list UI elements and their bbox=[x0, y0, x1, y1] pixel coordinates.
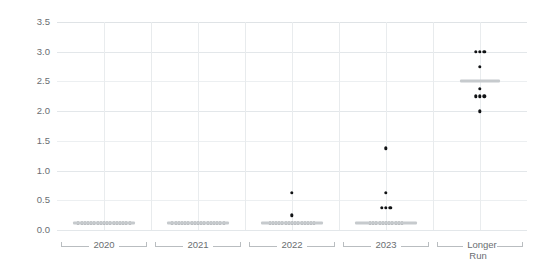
y-axis-tick-label: 0.0 bbox=[2, 225, 50, 235]
y-axis-tick-label: 2.5 bbox=[2, 77, 50, 87]
data-point bbox=[384, 191, 387, 194]
group-center-line bbox=[480, 22, 481, 230]
x-axis-group-label: 2020 bbox=[61, 239, 147, 250]
median-bar bbox=[167, 221, 229, 224]
data-point bbox=[474, 95, 477, 98]
group-center-line bbox=[292, 22, 293, 230]
data-point bbox=[290, 213, 293, 216]
data-point bbox=[478, 50, 481, 53]
x-axis-group-2022: 2022 bbox=[249, 236, 335, 270]
y-axis-tick-label: 1.0 bbox=[2, 166, 50, 176]
y-axis: 0.00.51.01.52.02.53.03.5 bbox=[0, 22, 50, 230]
plot-area bbox=[57, 22, 527, 230]
group-separator bbox=[245, 22, 246, 230]
data-point bbox=[290, 191, 293, 194]
data-point bbox=[478, 65, 481, 68]
group-separator bbox=[151, 22, 152, 230]
x-axis-group-label: 2023 bbox=[343, 239, 429, 250]
group-center-line bbox=[104, 22, 105, 230]
data-point bbox=[384, 206, 387, 209]
x-axis-group-2023: 2023 bbox=[343, 236, 429, 270]
dot-plot-chart: 0.00.51.01.52.02.53.03.5 202020212022202… bbox=[0, 0, 534, 276]
data-point bbox=[478, 109, 481, 112]
data-point bbox=[483, 95, 486, 98]
data-point bbox=[474, 50, 477, 53]
group-center-line bbox=[198, 22, 199, 230]
data-point bbox=[478, 87, 481, 90]
group-separator bbox=[433, 22, 434, 230]
group-separator bbox=[339, 22, 340, 230]
y-axis-tick-label: 3.5 bbox=[2, 17, 50, 27]
data-point bbox=[483, 50, 486, 53]
data-point bbox=[380, 206, 383, 209]
median-bar bbox=[460, 80, 500, 83]
median-bar bbox=[73, 221, 135, 224]
x-axis-group-label: 2021 bbox=[155, 239, 241, 250]
x-axis: 2020202120222023Longer Run bbox=[57, 236, 527, 270]
data-point bbox=[384, 147, 387, 150]
x-axis-group-longer-run: Longer Run bbox=[437, 236, 523, 270]
data-point bbox=[389, 206, 392, 209]
group-center-line bbox=[386, 22, 387, 230]
median-bar bbox=[355, 221, 417, 224]
y-axis-tick-label: 2.0 bbox=[2, 106, 50, 116]
x-axis-group-label: Longer Run bbox=[437, 239, 523, 261]
y-axis-tick-label: 0.5 bbox=[2, 196, 50, 206]
data-point bbox=[478, 95, 481, 98]
x-axis-group-2021: 2021 bbox=[155, 236, 241, 270]
x-axis-group-label: 2022 bbox=[249, 239, 335, 250]
y-axis-tick-label: 3.0 bbox=[2, 47, 50, 57]
x-axis-group-2020: 2020 bbox=[61, 236, 147, 270]
gridline bbox=[57, 230, 527, 231]
median-bar bbox=[261, 221, 323, 224]
y-axis-tick-label: 1.5 bbox=[2, 136, 50, 146]
